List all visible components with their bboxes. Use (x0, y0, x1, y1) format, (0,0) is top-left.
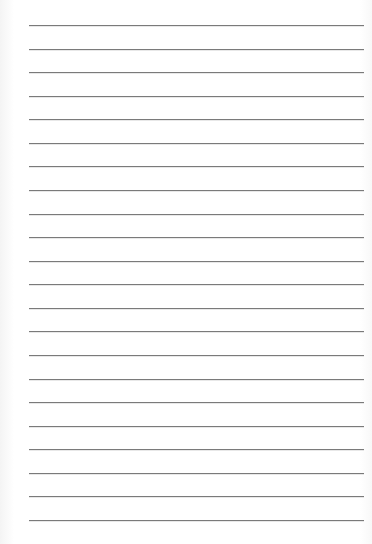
ruled-line (29, 402, 364, 403)
ruled-line (29, 119, 364, 120)
ruled-line (29, 49, 364, 50)
ruled-line (29, 355, 364, 356)
ruled-line (29, 473, 364, 474)
ruled-line (29, 308, 364, 309)
ruled-line (29, 237, 364, 238)
ruled-line (29, 143, 364, 144)
ruled-line (29, 331, 364, 332)
ruled-line (29, 379, 364, 380)
ruled-line (29, 25, 364, 26)
ruled-line (29, 284, 364, 285)
ruled-line (29, 190, 364, 191)
lined-paper-page (0, 0, 372, 544)
ruled-line (29, 96, 364, 97)
ruled-line (29, 426, 364, 427)
ruled-line (29, 496, 364, 497)
ruled-line (29, 72, 364, 73)
ruled-line (29, 166, 364, 167)
ruled-line (29, 214, 364, 215)
ruled-line (29, 261, 364, 262)
ruled-line (29, 520, 364, 521)
ruled-line (29, 449, 364, 450)
